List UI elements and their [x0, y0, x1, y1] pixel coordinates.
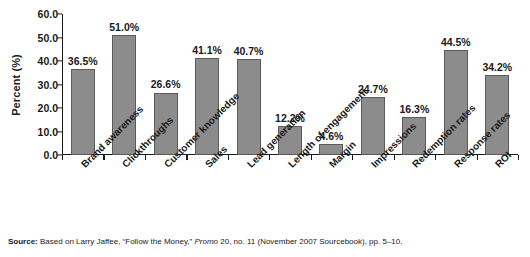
source-note: Source: Based on Larry Jaffee, “Follow t…: [8, 236, 524, 247]
y-axis-tick-mark: [57, 60, 62, 61]
x-axis-tick-mark: [352, 155, 353, 160]
x-axis-category-label: ROI: [493, 149, 513, 169]
x-axis-category-label: Margin: [327, 139, 358, 170]
x-axis-tick-mark: [518, 155, 519, 160]
y-axis-tick-mark: [57, 131, 62, 132]
y-axis-tick-mark: [57, 84, 62, 85]
bar-chart-figure: Percent (%) 0.010.020.030.040.050.060.0 …: [0, 0, 530, 230]
x-axis-category-label: Length of engagement: [286, 86, 370, 170]
y-axis-tick-mark: [57, 107, 62, 108]
x-axis-tick-mark: [394, 155, 395, 160]
x-axis-tick-mark: [103, 155, 104, 160]
source-label: Source:: [8, 237, 38, 246]
x-axis-tick-mark: [145, 155, 146, 160]
source-text-after: 20, no. 11 (November 2007 Sourcebook), p…: [218, 237, 402, 246]
x-axis-tick-mark: [228, 155, 229, 160]
x-axis-tick-mark: [477, 155, 478, 160]
y-axis-tick-mark: [57, 13, 62, 14]
x-axis-tick-mark: [186, 155, 187, 160]
x-axis-tick-mark: [62, 155, 63, 160]
y-axis-tick-mark: [57, 37, 62, 38]
x-axis-category-label: Sales: [203, 144, 229, 170]
source-text-before: Based on Larry Jaffee, “Follow the Money…: [38, 237, 195, 246]
x-axis-category-labels: Brand awarenessClickthroughsCustomer kno…: [0, 0, 530, 230]
source-publication-name: Promo: [194, 237, 218, 246]
x-axis-tick-mark: [435, 155, 436, 160]
x-axis-tick-mark: [311, 155, 312, 160]
x-axis-category-label: Customer knowledge: [162, 90, 241, 169]
x-axis-tick-mark: [269, 155, 270, 160]
